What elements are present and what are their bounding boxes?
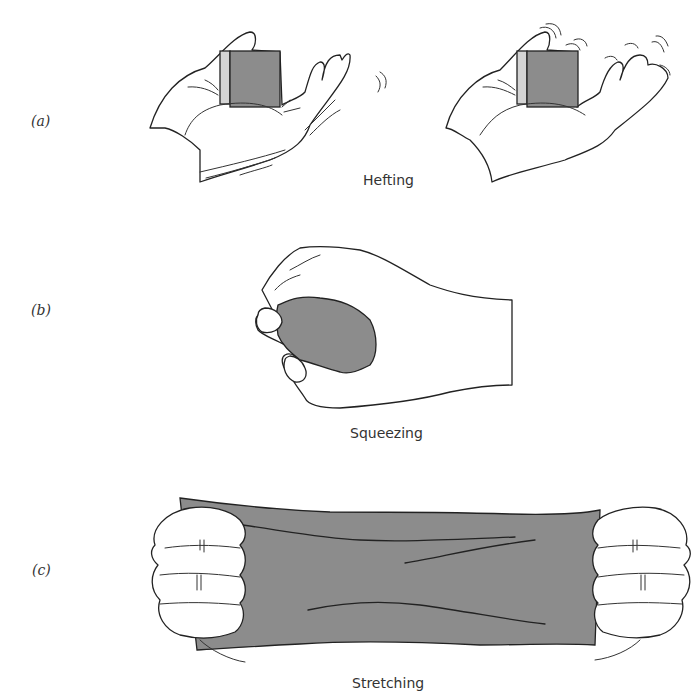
hefting-hand-right-illustration bbox=[376, 24, 670, 182]
figure-illustrations bbox=[0, 0, 696, 691]
squeezing-hand-illustration bbox=[256, 247, 512, 408]
stretching-hands-illustration bbox=[152, 498, 691, 662]
caption-stretching: Stretching bbox=[352, 675, 424, 691]
panel-label-b: (b) bbox=[31, 302, 51, 318]
panel-label-a: (a) bbox=[31, 113, 50, 129]
caption-squeezing: Squeezing bbox=[350, 425, 423, 441]
caption-hefting: Hefting bbox=[363, 172, 414, 188]
panel-label-c: (c) bbox=[32, 562, 51, 578]
hefting-hand-left-illustration bbox=[150, 32, 350, 182]
